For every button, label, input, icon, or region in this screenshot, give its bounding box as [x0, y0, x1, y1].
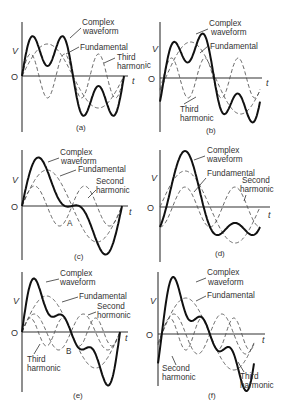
curve-label: Complex: [207, 146, 239, 155]
origin-label: O: [11, 202, 18, 212]
panel-caption: (e): [73, 391, 83, 400]
leader-arrow: [60, 170, 76, 176]
curve-label: Second: [96, 177, 124, 186]
point-label: A: [67, 219, 73, 228]
harmonic-waveform-figure: VOt(a)ComplexwaveformFundamentalThirdhar…: [0, 0, 289, 418]
curve-label: harmonic: [240, 381, 274, 390]
curve-label: waveform: [206, 155, 243, 164]
panel-caption: (b): [206, 126, 216, 135]
curve-label: Fundamental: [207, 291, 255, 300]
t-axis-label: t: [125, 333, 128, 343]
origin-label: O: [11, 72, 18, 82]
curve-label: Complex: [207, 268, 239, 277]
curve-label: Complex: [209, 19, 241, 28]
curve-label: Complex: [82, 18, 114, 27]
leader-arrow: [194, 156, 205, 160]
leader-arrow: [88, 312, 96, 315]
leader-arrow: [104, 58, 115, 63]
origin-label: O: [147, 203, 154, 213]
panel-a: VOt(a)ComplexwaveformFundamentalThirdhar…: [11, 18, 145, 132]
curve-label: Complex: [60, 269, 92, 278]
panel-caption: (d): [215, 249, 225, 258]
curve-label: harmonic: [180, 114, 214, 123]
v-axis-label: V: [151, 173, 158, 183]
t-axis-label: t: [129, 207, 132, 217]
leader-arrow: [196, 278, 206, 282]
leader-arrow: [88, 190, 96, 198]
curve-label: harmonic: [162, 373, 196, 382]
t-axis-label: t: [262, 335, 265, 345]
curve-label: Third: [240, 372, 259, 381]
v-axis-label: V: [12, 175, 19, 185]
panel-c: VOt(c)ComplexwaveformFundamentalSecondha…: [11, 148, 132, 261]
v-axis-label: V: [150, 296, 157, 306]
curve-label: Second: [97, 302, 125, 311]
curve-label: Complex: [60, 148, 92, 157]
leader-arrow: [184, 97, 196, 104]
panel-caption: (f): [208, 391, 216, 400]
panel-d: VOt(d)ComplexwaveformFundamentalSecondha…: [147, 146, 274, 262]
curve-label: waveform: [82, 27, 119, 36]
leader-arrow: [46, 279, 59, 282]
point-label: B: [66, 347, 72, 356]
curve-label: Fundamental: [210, 42, 258, 51]
leader-arrow: [34, 344, 40, 354]
t-axis-label: t: [268, 210, 271, 220]
curve-label: Third: [117, 53, 136, 62]
panel-caption: (c): [74, 252, 84, 261]
curve-label: waveform: [207, 278, 244, 287]
curve-label: Fundamental: [79, 292, 127, 301]
origin-label: O: [146, 330, 153, 340]
v-axis-label: V: [13, 296, 20, 306]
waveform-diagram-canvas: VOt(a)ComplexwaveformFundamentalThirdhar…: [0, 0, 289, 418]
curve-label: waveform: [59, 278, 96, 287]
curve-label: Fundamental: [78, 165, 126, 174]
curve-label: harmonic: [96, 186, 130, 195]
panel-caption: (a): [76, 123, 86, 132]
v-axis-label: V: [12, 46, 19, 56]
leader-arrow: [196, 296, 206, 301]
leader-arrow: [62, 297, 78, 302]
panel-f: VOt(f)ComplexwaveformFundamentalSecondha…: [146, 268, 274, 400]
v-axis-label: V: [152, 44, 159, 54]
curve-label: waveform: [210, 28, 247, 37]
curve-label: Second: [242, 176, 270, 185]
curve-label: harmonic: [240, 185, 274, 194]
origin-label: O: [11, 328, 18, 338]
origin-label: O: [148, 74, 155, 84]
curve-label: Third: [180, 105, 199, 114]
curve-label: Third: [27, 355, 46, 364]
t-axis-label: t: [266, 78, 269, 88]
curve-label: Second: [162, 364, 190, 373]
leader-arrow: [48, 158, 59, 162]
curve-label: hormonic: [97, 311, 131, 320]
panel-b: VOt(b)ComplexwaveformFundamentalThirdhar…: [145, 19, 269, 135]
leader-arrow: [70, 28, 81, 38]
panel-e: VOt(e)ComplexwaveformFundamentalSecondho…: [11, 269, 131, 400]
curve-label: harmonic: [27, 364, 61, 373]
curve-label: ic: [145, 61, 151, 70]
curve-label: harmon: [117, 62, 145, 71]
t-axis-label: t: [132, 76, 135, 86]
curve-label: Fundamental: [80, 43, 128, 52]
